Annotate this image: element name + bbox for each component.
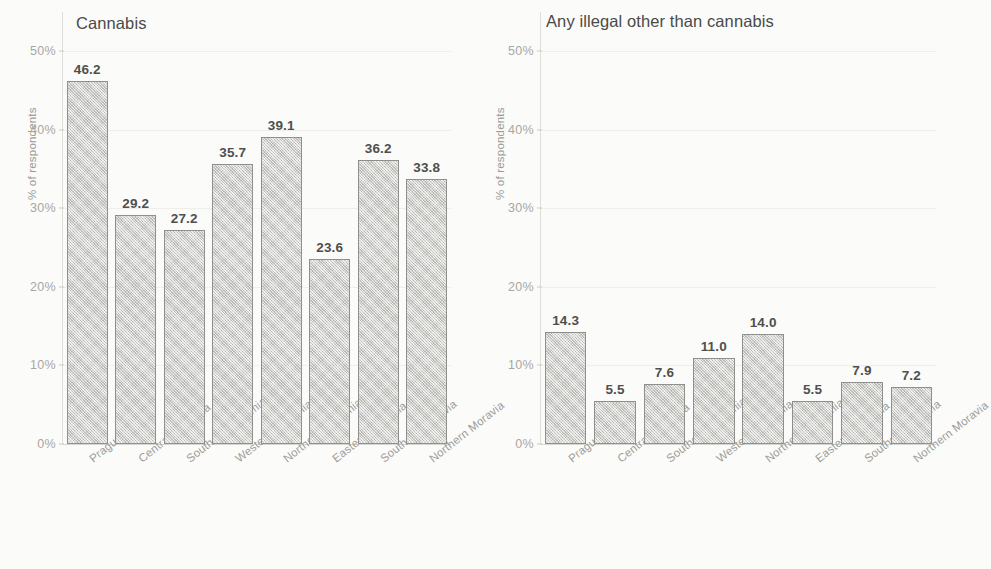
bar[interactable] <box>164 230 205 444</box>
bar[interactable] <box>115 215 156 444</box>
bar[interactable] <box>792 401 833 444</box>
bar-value-label: 11.0 <box>689 339 738 354</box>
bar-value-label: 7.9 <box>837 363 886 378</box>
bar[interactable] <box>67 81 108 444</box>
y-tick-label: 20% <box>508 280 534 294</box>
bar-slot: 7.2Northern Moravia <box>887 12 936 444</box>
y-axis-label: % of respondents <box>494 107 506 200</box>
bar-slot: 39.1Northern Bohemia <box>257 12 306 444</box>
bar[interactable] <box>261 137 302 444</box>
bar-slot: 7.6Southern Bohemia <box>640 12 689 444</box>
bar-value-label: 27.2 <box>160 211 209 226</box>
bar[interactable] <box>358 160 399 444</box>
bar-value-label: 5.5 <box>788 382 837 397</box>
bar-value-label: 5.5 <box>590 382 639 397</box>
bar[interactable] <box>841 382 882 444</box>
y-tick-label: 50% <box>508 44 534 58</box>
bar-slot: 35.7Western Bohemia <box>209 12 258 444</box>
y-tick-label: 40% <box>30 123 56 137</box>
bar-value-label: 33.8 <box>403 160 452 175</box>
bar-slot: 27.2Southern Bohemia <box>160 12 209 444</box>
y-tick-label: 0% <box>37 437 56 451</box>
bar[interactable] <box>309 259 350 444</box>
bar-group: 14.3Prague5.5Central Bohemia7.6Southern … <box>541 12 936 444</box>
bar-value-label: 36.2 <box>354 141 403 156</box>
y-tick-label: 10% <box>30 358 56 372</box>
panel-cannabis: % of respondents Cannabis 50%40%30%20%10… <box>0 0 480 569</box>
bar-slot: 14.0Northern Bohemia <box>739 12 788 444</box>
plot-area: 50%40%30%20%10%0% 14.3Prague5.5Central B… <box>540 12 936 444</box>
plot-area: 50%40%30%20%10%0% 46.2Prague29.2Central … <box>62 12 451 444</box>
bar[interactable] <box>212 164 253 444</box>
bar[interactable] <box>545 332 586 444</box>
bar[interactable] <box>594 401 635 444</box>
bar-value-label: 29.2 <box>112 196 161 211</box>
y-axis-label: % of respondents <box>26 107 38 200</box>
bar-slot: 5.5Central Bohemia <box>590 12 639 444</box>
bar-slot: 11.0Western Bohemia <box>689 12 738 444</box>
bar-slot: 36.2Southern Moravia <box>354 12 403 444</box>
y-tick-label: 40% <box>508 123 534 137</box>
bar[interactable] <box>644 384 685 444</box>
bar[interactable] <box>742 334 783 444</box>
bar[interactable] <box>693 358 734 444</box>
bar-value-label: 7.6 <box>640 365 689 380</box>
bar[interactable] <box>406 179 447 444</box>
bar-slot: 7.9Southern Moravia <box>837 12 886 444</box>
y-tick-label: 20% <box>30 280 56 294</box>
panel-any-illegal-other-than-cannabis: % of respondents Any illegal other than … <box>480 0 974 569</box>
bar[interactable] <box>891 387 932 444</box>
bar-slot: 23.6Eastern Bohemia <box>306 12 355 444</box>
bar-value-label: 14.3 <box>541 313 590 328</box>
y-tick-label: 50% <box>30 44 56 58</box>
bar-value-label: 14.0 <box>739 315 788 330</box>
bar-value-label: 35.7 <box>209 145 258 160</box>
bar-slot: 5.5Eastern Bohemia <box>788 12 837 444</box>
bar-value-label: 39.1 <box>257 118 306 133</box>
bar-slot: 46.2Prague <box>63 12 112 444</box>
bar-group: 46.2Prague29.2Central Bohemia27.2Souther… <box>63 12 451 444</box>
bar-value-label: 23.6 <box>306 240 355 255</box>
bar-value-label: 46.2 <box>63 62 112 77</box>
bar-slot: 14.3Prague <box>541 12 590 444</box>
y-tick-label: 30% <box>508 201 534 215</box>
bar-value-label: 7.2 <box>887 368 936 383</box>
bar-slot: 33.8Northern Moravia <box>403 12 452 444</box>
y-tick-label: 0% <box>515 437 534 451</box>
y-tick-label: 30% <box>30 201 56 215</box>
bar-slot: 29.2Central Bohemia <box>112 12 161 444</box>
y-tick-label: 10% <box>508 358 534 372</box>
